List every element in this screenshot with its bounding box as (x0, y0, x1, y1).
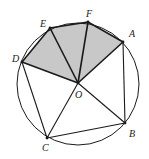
point-b-dot (124, 122, 127, 125)
point-d-dot (21, 61, 24, 64)
label-f: F (85, 8, 93, 19)
point-f-dot (87, 21, 90, 24)
segment-ab (123, 42, 125, 123)
label-e: E (39, 18, 46, 29)
label-c: C (42, 142, 49, 153)
segment-oc (47, 83, 78, 138)
segment-cb (47, 123, 125, 138)
label-b: B (129, 128, 135, 139)
point-e-dot (49, 27, 52, 30)
label-o: O (75, 89, 82, 100)
label-a: A (128, 28, 136, 39)
label-d: D (11, 53, 20, 64)
point-a-dot (122, 41, 125, 44)
diagram-canvas: A B C D E F O (0, 0, 149, 159)
point-c-dot (46, 137, 49, 140)
geometry-diagram: A B C D E F O (0, 0, 149, 159)
segment-ob (78, 83, 125, 123)
point-o-dot (77, 82, 80, 85)
